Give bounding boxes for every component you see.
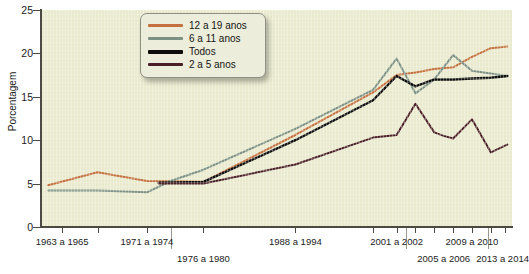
x-axis-tick-label: 2009 a 2010 — [446, 236, 499, 247]
x-axis-tick — [98, 228, 99, 233]
y-axis-labels: 0510152025 — [0, 0, 33, 240]
x-axis-tick — [397, 228, 398, 233]
x-axis-tick — [147, 228, 148, 233]
legend-item[interactable]: Todos — [148, 45, 258, 58]
legend-item-label: 2 a 5 anos — [189, 59, 236, 70]
x-axis-tick-label: 1971 a 1974 — [121, 236, 174, 247]
series-line — [159, 104, 508, 184]
legend-item-label: 6 a 11 anos — [189, 33, 241, 44]
x-axis-tick — [415, 228, 416, 233]
x-axis-tick — [472, 228, 473, 233]
legend-color-swatch — [148, 50, 183, 54]
y-axis-tick-label: 0 — [3, 222, 33, 232]
x-axis-tick — [505, 228, 506, 233]
x-axis-tick-label: 1976 a 1980 — [177, 253, 230, 264]
y-axis-tick — [33, 53, 41, 54]
legend-item[interactable]: 12 a 19 anos — [148, 19, 258, 32]
legend-color-swatch — [148, 37, 183, 40]
x-axis-tick — [62, 228, 63, 233]
x-axis-tick-label: 2001 a 2002 — [370, 236, 423, 247]
y-axis-tick-label: 5 — [3, 179, 33, 189]
legend-color-swatch — [148, 63, 183, 66]
x-axis-tick-label: 2013 a 2014 — [476, 253, 529, 264]
y-axis-tick-label: 20 — [3, 48, 33, 58]
x-axis-tick — [453, 228, 454, 233]
x-axis-tick — [203, 228, 204, 233]
x-axis-tick — [295, 228, 296, 233]
x-axis-tick-label: 2005 a 2006 — [417, 253, 470, 264]
y-axis-tick — [33, 97, 41, 98]
y-axis-tick — [33, 140, 41, 141]
y-axis-tick — [33, 227, 41, 228]
legend-item-label: Todos — [189, 46, 216, 57]
y-axis-tick-label: 10 — [3, 135, 33, 145]
legend-color-swatch — [148, 24, 183, 27]
x-axis-tick — [373, 228, 374, 233]
legend-item[interactable]: 6 a 11 anos — [148, 32, 258, 45]
y-axis-tick — [33, 10, 41, 11]
legend-item[interactable]: 2 a 5 anos — [148, 58, 258, 71]
series-line — [48, 46, 507, 185]
x-axis-tick — [434, 228, 435, 233]
y-axis-tick-label: 15 — [3, 92, 33, 102]
series-lines — [41, 10, 512, 227]
x-axis-tick-label: 1988 a 1994 — [269, 236, 322, 247]
y-axis-tick-label: 25 — [3, 5, 33, 15]
x-axis-tick — [491, 228, 492, 233]
plot-area — [41, 10, 512, 227]
chart-legend: 12 a 19 anos6 a 11 anosTodos2 a 5 anos — [140, 13, 266, 78]
x-axis-tick-label: 1963 a 1965 — [36, 236, 89, 247]
y-axis-line — [40, 9, 42, 228]
legend-item-label: 12 a 19 anos — [189, 20, 247, 31]
y-axis-tick — [33, 184, 41, 185]
x-axis-line — [40, 226, 513, 228]
series-line — [48, 55, 507, 192]
